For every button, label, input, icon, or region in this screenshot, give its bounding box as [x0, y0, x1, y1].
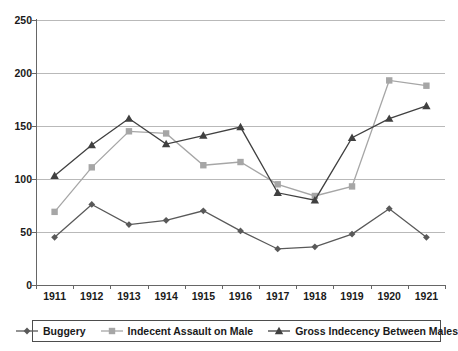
- diamond-marker: [200, 207, 207, 214]
- diamond-marker: [24, 328, 31, 335]
- legend: BuggeryIndecent Assault on MaleGross Ind…: [32, 320, 441, 342]
- square-marker: [100, 325, 124, 337]
- y-tick-mark: [31, 179, 36, 180]
- diamond-marker: [237, 228, 244, 235]
- y-tick-mark: [31, 126, 36, 127]
- y-tick-mark: [31, 20, 36, 21]
- triangle-marker: [348, 133, 356, 140]
- x-tick-mark: [333, 285, 334, 289]
- x-tick-mark: [73, 285, 74, 289]
- triangle-marker: [125, 114, 133, 121]
- diamond-marker: [311, 243, 318, 250]
- triangle-marker: [422, 102, 430, 109]
- legend-item[interactable]: Indecent Assault on Male: [100, 325, 254, 337]
- triangle-marker: [236, 123, 244, 130]
- y-tick-mark: [31, 73, 36, 74]
- x-tick-mark: [445, 285, 446, 289]
- x-tick-mark: [148, 285, 149, 289]
- square-marker: [108, 328, 114, 334]
- y-tick-mark: [31, 232, 36, 233]
- series-buggery: [51, 201, 430, 252]
- square-marker: [51, 209, 57, 215]
- diamond-marker: [126, 221, 133, 228]
- square-marker: [126, 128, 132, 134]
- legend-label: Gross Indecency Between Males: [295, 325, 458, 337]
- series-line: [55, 106, 427, 200]
- legend-item[interactable]: Buggery: [15, 325, 86, 337]
- x-tick-mark: [110, 285, 111, 289]
- square-marker: [274, 181, 280, 187]
- x-tick-mark: [259, 285, 260, 289]
- square-marker: [423, 83, 429, 89]
- diamond-marker: [163, 217, 170, 224]
- series-line: [55, 204, 427, 249]
- x-tick-mark: [36, 285, 37, 289]
- square-marker: [89, 164, 95, 170]
- triangle-marker: [273, 189, 281, 196]
- x-tick-mark: [408, 285, 409, 289]
- square-marker: [237, 159, 243, 165]
- diamond-marker: [274, 246, 281, 253]
- legend-label: Indecent Assault on Male: [128, 325, 254, 337]
- series-indecent-assault-on-male: [51, 77, 429, 215]
- diamond-marker: [15, 325, 39, 337]
- series-line: [55, 80, 427, 211]
- square-marker: [163, 130, 169, 136]
- legend-items: BuggeryIndecent Assault on MaleGross Ind…: [33, 321, 440, 341]
- legend-item[interactable]: Gross Indecency Between Males: [267, 325, 458, 337]
- triangle-marker: [267, 325, 291, 337]
- x-tick-mark: [185, 285, 186, 289]
- triangle-marker: [88, 141, 96, 148]
- x-tick-mark: [296, 285, 297, 289]
- square-marker: [200, 162, 206, 168]
- x-tick-mark: [222, 285, 223, 289]
- square-marker: [386, 77, 392, 83]
- square-marker: [349, 183, 355, 189]
- legend-label: Buggery: [43, 325, 86, 337]
- x-tick-mark: [371, 285, 372, 289]
